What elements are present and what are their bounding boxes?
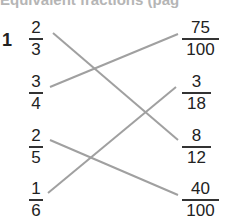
match-line-2-3	[53, 33, 178, 140]
numerator: 40	[191, 180, 210, 197]
denominator: 6	[31, 202, 40, 219]
match-line-2-5	[50, 140, 178, 195]
right-fraction-2: 318	[182, 73, 211, 112]
right-fraction-1: 75100	[182, 19, 219, 58]
numerator: 2	[31, 127, 40, 144]
denominator: 4	[31, 95, 40, 112]
right-fraction-3: 812	[182, 127, 211, 166]
numerator: 3	[31, 73, 40, 90]
numerator: 3	[192, 73, 201, 90]
right-fraction-4: 40100	[182, 180, 219, 219]
match-line-3-4	[50, 34, 178, 87]
numerator: 8	[192, 127, 201, 144]
denominator: 3	[31, 41, 40, 58]
left-fraction-2: 34	[29, 73, 43, 112]
left-fraction-4: 16	[29, 180, 43, 219]
left-fraction-1: 23	[29, 19, 43, 58]
match-line-1-6	[48, 87, 176, 193]
denominator: 5	[31, 149, 40, 166]
numerator: 1	[31, 180, 40, 197]
numerator: 75	[191, 19, 210, 36]
left-fraction-3: 25	[29, 127, 43, 166]
denominator: 12	[187, 149, 206, 166]
numerator: 2	[31, 19, 40, 36]
denominator: 100	[186, 41, 214, 58]
denominator: 100	[186, 202, 214, 219]
denominator: 18	[187, 95, 206, 112]
